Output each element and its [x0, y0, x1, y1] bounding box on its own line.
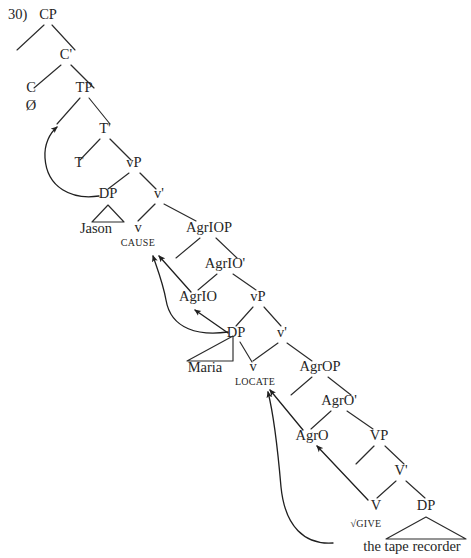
terminal-cause: CAUSE: [121, 237, 155, 248]
node-vbar-lower: v': [277, 324, 287, 340]
branch-tp-left: [57, 98, 80, 124]
branch-agrop-left: [291, 377, 312, 395]
triangle-dp-indirect: [187, 336, 233, 361]
branch-vbar-lower-left: [253, 343, 278, 361]
node-c: C: [26, 79, 36, 95]
node-vp-lower: vP: [250, 288, 265, 304]
movement-arrow-subject-to-spec-tp: [45, 127, 99, 197]
example-number: 30): [8, 6, 28, 23]
branch-vbar-main-left: [377, 481, 396, 498]
node-dp-subject: DP: [99, 185, 118, 201]
node-agriobar: AgrIO': [205, 255, 245, 271]
node-vp-main: VP: [370, 427, 389, 443]
node-tbar: T': [99, 120, 110, 136]
terminal-jason: Jason: [80, 220, 113, 236]
movement-arrow-agro-to-v-locate: [270, 390, 303, 430]
terminal-give-root: √GIVE: [351, 518, 382, 529]
terminal-c-null: Ø: [26, 97, 36, 113]
node-vp-upper: vP: [126, 154, 141, 170]
movement-arrow-object-to-spec-agrop: [268, 392, 333, 543]
node-v-upper: v: [134, 219, 142, 235]
movement-arrow-agrio-to-v-cause: [159, 256, 191, 292]
node-cp: CP: [39, 6, 57, 22]
node-agro: AgrO: [295, 427, 328, 443]
branch-cp-left: [17, 25, 44, 50]
syntax-tree-figure: 30) CP C' C Ø TP T' T vP DP Jason v' v C…: [0, 0, 471, 558]
terminal-maria: Maria: [188, 359, 223, 375]
branch-cbar-left: [34, 65, 61, 88]
node-vbar-upper: v': [154, 185, 164, 201]
node-agrobar: AgrO': [321, 392, 357, 408]
movement-arrow-dp-maria-to-agrio: [195, 310, 228, 333]
terminal-locate: LOCATE: [235, 376, 275, 387]
branch-vp-main-left: [356, 446, 374, 464]
node-cbar: C': [60, 46, 72, 62]
node-t: T: [75, 154, 84, 170]
node-vbar-main: V': [394, 462, 407, 478]
terminal-the-tape-recorder: the tape recorder: [363, 538, 461, 554]
branch-vbar-main-right: [406, 481, 425, 498]
node-agrop: AgrOP: [299, 358, 340, 374]
node-agrio: AgrIO: [179, 288, 217, 304]
node-v-main: V: [371, 497, 382, 513]
node-v-lower: v: [249, 358, 257, 374]
node-tp: TP: [76, 79, 93, 95]
node-dp-object: DP: [417, 497, 436, 513]
branch-agriop-left: [176, 238, 200, 258]
triangle-dp-object: [386, 517, 466, 539]
movement-arrow-v-to-agro: [317, 446, 368, 500]
node-agriop: AgrIOP: [186, 219, 232, 235]
